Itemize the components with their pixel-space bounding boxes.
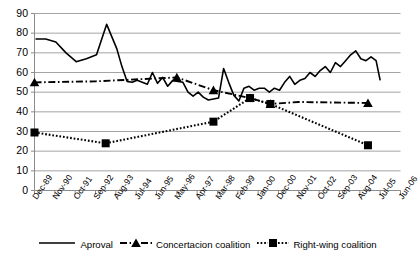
y-tick-label: 20 xyxy=(4,145,28,156)
y-tick-label: 60 xyxy=(4,67,28,78)
y-tick-label: 90 xyxy=(4,8,28,19)
gridlines xyxy=(35,14,401,171)
y-tick-label: 80 xyxy=(4,27,28,38)
marker-square xyxy=(31,128,39,136)
y-tick-label: 50 xyxy=(4,86,28,97)
series-markers xyxy=(30,73,373,149)
marker-square xyxy=(364,141,372,149)
y-tick-label: 40 xyxy=(4,106,28,117)
y-tick-label: 0 xyxy=(4,185,28,196)
legend-item[interactable]: Right-wing coalition xyxy=(256,237,376,251)
chart-legend: AprovalConcertacion coalitionRight-wing … xyxy=(0,234,414,254)
dashdot-triangle-icon xyxy=(119,237,153,251)
marker-square xyxy=(246,94,254,102)
series-line-2 xyxy=(35,98,368,145)
y-tick-label: 10 xyxy=(4,165,28,176)
marker-square xyxy=(102,139,110,147)
marker-square xyxy=(209,118,217,126)
marker-triangle xyxy=(209,86,219,95)
legend-label: Concertacion coalition xyxy=(156,239,250,250)
legend-item[interactable]: Aproval xyxy=(37,237,113,251)
y-tick-label: 70 xyxy=(4,47,28,58)
legend-label: Right-wing coalition xyxy=(293,239,376,250)
legend-label: Aproval xyxy=(80,239,113,250)
legend-item[interactable]: Concertacion coalition xyxy=(119,237,250,251)
series-line-1 xyxy=(35,77,368,104)
solid-line-icon xyxy=(37,237,77,251)
series-lines xyxy=(35,24,381,145)
series-line-0 xyxy=(36,24,381,101)
marker-square xyxy=(266,100,274,108)
y-tick-label: 30 xyxy=(4,126,28,137)
dotted-square-icon xyxy=(256,237,290,251)
